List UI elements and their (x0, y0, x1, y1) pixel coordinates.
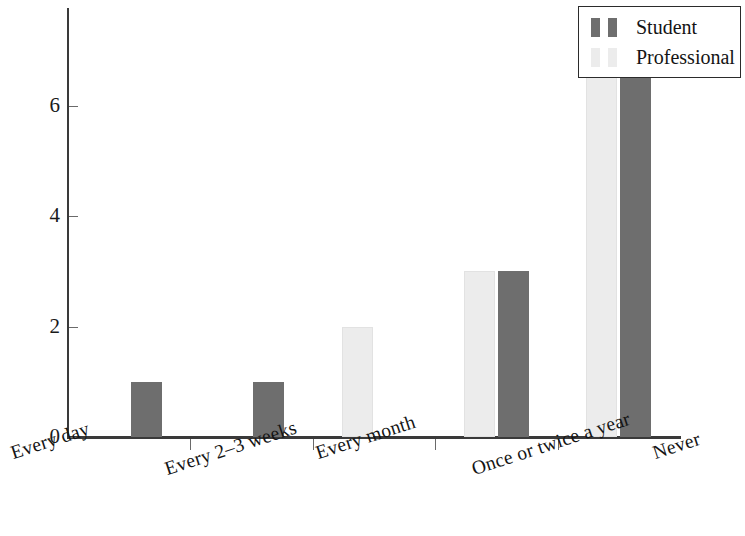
bar-chart-figure: 0246 Every dayEvery 2–3 weeksEvery month… (0, 0, 745, 536)
bar (131, 382, 162, 437)
legend-swatch-student-a (591, 18, 600, 37)
legend-row-student: Student (579, 12, 740, 42)
bar (464, 271, 495, 437)
bar (620, 51, 651, 437)
x-axis-category-labels: Every dayEvery 2–3 weeksEvery monthOnce … (0, 437, 745, 536)
bar (342, 327, 373, 437)
legend-swatch-student-b (608, 18, 617, 37)
legend-swatch-professional-a (591, 48, 600, 67)
bar (586, 51, 617, 437)
legend-swatch-professional-b (608, 48, 617, 67)
bar (498, 271, 529, 437)
legend-label-professional: Professional (636, 44, 735, 70)
legend-label-student: Student (636, 14, 697, 40)
legend-row-professional: Professional (579, 42, 740, 72)
legend: Student Professional (578, 6, 741, 78)
